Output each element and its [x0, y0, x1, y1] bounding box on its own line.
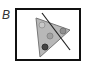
circle-dot [39, 22, 45, 28]
circle-dot [60, 28, 66, 34]
circle-dot [42, 44, 48, 50]
diagram-canvas [0, 0, 87, 69]
circle-dot [47, 33, 53, 39]
